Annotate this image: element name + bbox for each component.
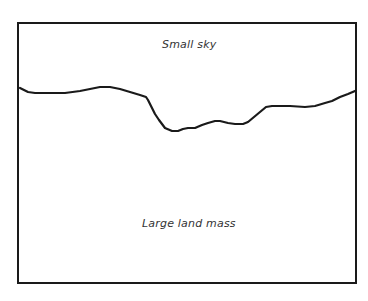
land-label: Large land mass xyxy=(142,217,236,230)
sky-label: Small sky xyxy=(162,38,216,51)
horizon-polyline xyxy=(20,87,355,131)
